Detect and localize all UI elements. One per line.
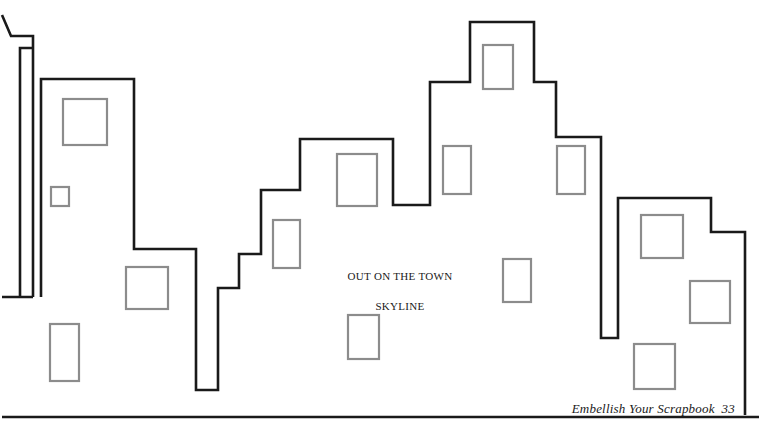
skyline-windows-group	[50, 45, 730, 389]
page-title: OUT ON THE TOWN SKYLINE	[300, 254, 500, 329]
window-mid-narrow	[273, 220, 300, 268]
window-right-middle	[690, 281, 730, 323]
page-title-line-2: SKYLINE	[300, 299, 500, 314]
skyline-artwork	[0, 0, 761, 428]
window-tower-left	[443, 146, 471, 194]
window-left-small	[51, 187, 69, 206]
window-right-lower	[634, 344, 675, 389]
skyline-coloring-page: OUT ON THE TOWN SKYLINE Embellish Your S…	[0, 0, 761, 428]
window-tower-right	[557, 146, 585, 194]
footer-credit: Embellish Your Scrapbook 33	[572, 401, 735, 417]
window-tower-center-lower	[503, 259, 531, 302]
page-title-line-1: OUT ON THE TOWN	[300, 269, 500, 284]
window-right-upper	[641, 215, 683, 258]
window-mid-large	[337, 154, 377, 206]
window-left-upper-large	[63, 99, 107, 145]
window-tower-top	[483, 45, 513, 89]
window-left-lower-tall	[50, 324, 79, 381]
window-left-mid-square	[126, 267, 168, 309]
